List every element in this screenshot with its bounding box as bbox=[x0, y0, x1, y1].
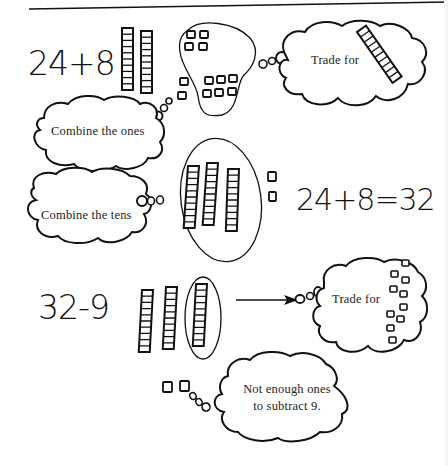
tens-rods-32 bbox=[139, 284, 207, 352]
caption-trade-for-rod: Trade for bbox=[311, 53, 359, 68]
cloud-combine-tens bbox=[28, 168, 151, 243]
top-rule bbox=[29, 2, 448, 9]
caption-combine-the-tens: Combine the tens bbox=[41, 208, 132, 223]
tens-rods-24 bbox=[122, 28, 152, 93]
equation-32-minus-9: 32-9 bbox=[38, 288, 109, 327]
ones-cubes-4 bbox=[185, 31, 208, 50]
ones-cubes-8 bbox=[178, 75, 237, 99]
caption-not-enough-ones-line2: to subtract 9. bbox=[237, 399, 337, 414]
page-edge-shadow bbox=[444, 0, 448, 466]
ones-cubes-2 bbox=[268, 172, 276, 201]
tens-rods-3 bbox=[184, 163, 239, 231]
equation-24-plus-8: 24+8 bbox=[28, 44, 115, 83]
caption-not-enough-ones-line1: Not enough ones bbox=[237, 382, 337, 397]
equation-24-plus-8-equals-32: 24+8=32 bbox=[296, 182, 435, 217]
caption-combine-the-ones: Combine the ones bbox=[51, 124, 144, 139]
caption-trade-for-ones: Trade for bbox=[332, 292, 380, 307]
regrouping-diagram: 24+8 Combine the ones Trade for Combine … bbox=[0, 0, 448, 466]
ones-cubes-2-bottom bbox=[163, 381, 189, 392]
